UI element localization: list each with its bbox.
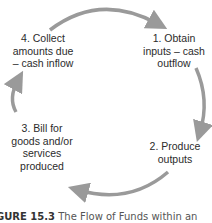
node-obtain-inputs: 1. Obtain inputs – cash outflow: [138, 32, 210, 70]
arrow-4-to-1: [50, 9, 158, 30]
node-collect-amounts: 4. Collect amounts due – cash inflow: [6, 32, 80, 70]
node-bill-goods: 3. Bill for goods and/or services produc…: [6, 122, 78, 172]
arrow-3-to-4: [12, 80, 18, 112]
node-line: 1. Obtain: [138, 32, 210, 45]
figure-caption: GURE 15.3 The Flow of Funds within an: [0, 211, 197, 222]
arrow-1-to-2: [196, 68, 204, 132]
node-line: 3. Bill for: [6, 122, 78, 135]
node-line: produced: [6, 160, 78, 173]
node-line: outflow: [138, 57, 210, 70]
node-line: inputs – cash: [138, 45, 210, 58]
caption-text: The Flow of Funds within an: [58, 211, 197, 222]
node-line: 4. Collect: [6, 32, 80, 45]
caption-label: GURE 15.3: [0, 211, 55, 222]
node-produce-outputs: 2. Produce outputs: [142, 140, 208, 165]
node-line: 2. Produce: [142, 140, 208, 153]
node-line: amounts due: [6, 45, 80, 58]
node-line: goods and/or: [6, 135, 78, 148]
node-line: outputs: [142, 153, 208, 166]
arrow-2-to-3: [78, 172, 168, 195]
node-line: services: [6, 147, 78, 160]
node-line: – cash inflow: [6, 57, 80, 70]
